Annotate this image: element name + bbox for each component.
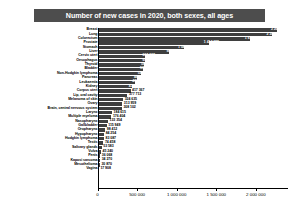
x-tick-label: 1 500 000 — [206, 193, 226, 197]
category-label: Vagina — [0, 167, 98, 171]
bar-chart: Number of new cases in 2020, both sexes,… — [0, 0, 298, 212]
y-axis-line — [98, 28, 99, 188]
page-title: Number of new cases in 2020, both sexes,… — [66, 12, 233, 19]
x-tick — [177, 188, 178, 191]
x-tick-label: 1 000 000 — [167, 193, 187, 197]
bar-value-label: 17 908 — [100, 167, 110, 171]
x-tick — [137, 188, 138, 191]
x-tick — [98, 188, 99, 191]
bar-row: Vagina17 908 — [0, 167, 298, 171]
x-tick — [256, 188, 257, 191]
plot-area: Breast2 261 419Lung2 206 771Colorectum1 … — [0, 28, 298, 188]
x-tick-label: 500 000 — [129, 193, 145, 197]
chart-title-banner: Number of new cases in 2020, both sexes,… — [34, 9, 265, 22]
bar-track: 17 908 — [98, 167, 299, 171]
x-tick-label: 2 000 000 — [246, 193, 266, 197]
x-axis-line — [98, 188, 288, 189]
x-tick — [216, 188, 217, 191]
x-tick-label: 0 — [96, 193, 98, 197]
